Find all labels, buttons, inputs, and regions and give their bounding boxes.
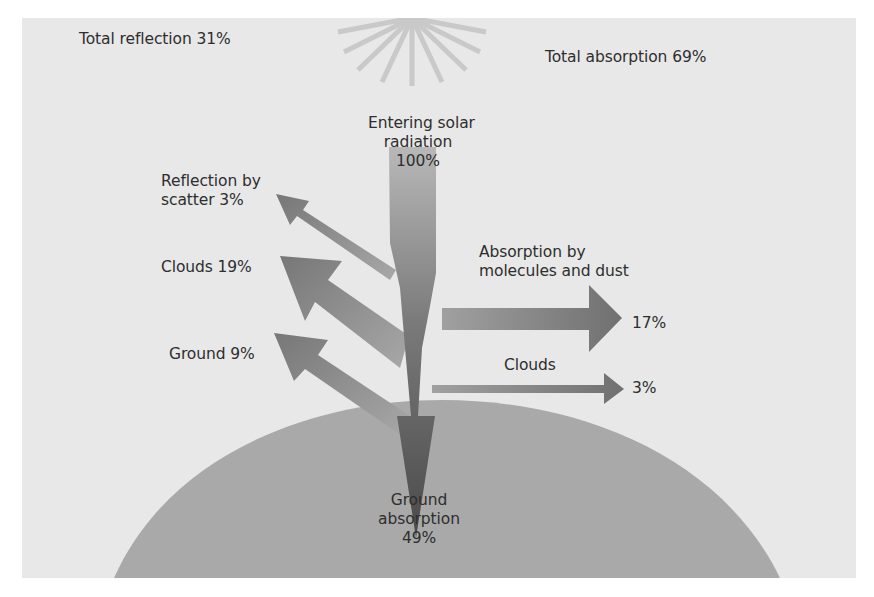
clouds-reflection-label: Clouds 19% [161, 258, 252, 277]
earth-shape [114, 400, 780, 578]
absorption-clouds-arrow [432, 373, 624, 404]
ground-absorption-line2: absorption [369, 510, 469, 529]
ground-absorption-label: Ground absorption 49% [369, 491, 469, 548]
ground-absorption-line1: Ground [369, 491, 469, 510]
molecules-label-line1: Absorption by [479, 243, 629, 262]
sun-icon [332, 18, 492, 86]
scatter-label-line2: scatter 3% [161, 191, 261, 210]
total-reflection-label: Total reflection 31% [79, 30, 231, 49]
absorption-molecules-arrow [442, 285, 622, 352]
clouds-absorption-label: Clouds [504, 356, 556, 375]
incoming-value: 100% [368, 152, 468, 171]
scatter-label-line1: Reflection by [161, 172, 261, 191]
ground-reflection-label: Ground 9% [169, 345, 255, 364]
incoming-label-line2: radiation [368, 133, 468, 152]
incoming-label: Entering solar radiation 100% [368, 114, 468, 171]
scatter-reflection-label: Reflection by scatter 3% [161, 172, 261, 210]
clouds-absorption-value: 3% [632, 379, 656, 398]
molecules-absorption-value: 17% [632, 314, 666, 333]
incoming-label-line1: Entering solar [368, 114, 468, 133]
molecules-absorption-label: Absorption by molecules and dust [479, 243, 629, 281]
total-absorption-label: Total absorption 69% [545, 48, 706, 67]
molecules-label-line2: molecules and dust [479, 262, 629, 281]
ground-absorption-value: 49% [369, 529, 469, 548]
diagram-panel: Total reflection 31% Total absorption 69… [22, 18, 856, 578]
